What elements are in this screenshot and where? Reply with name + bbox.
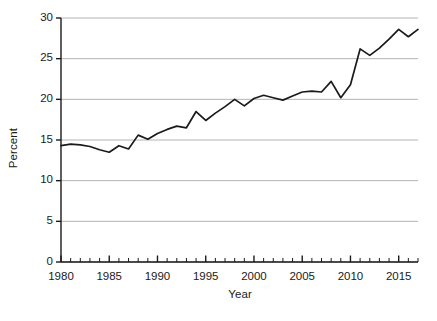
- line-chart: Percent Year 051015202530198019851990199…: [0, 0, 437, 321]
- x-tick-label-2010: 2010: [330, 270, 370, 282]
- x-tick-label-2005: 2005: [282, 270, 322, 282]
- data-series-line: [61, 29, 418, 152]
- x-tick-label-1980: 1980: [41, 270, 81, 282]
- x-axis-ticks: [61, 256, 418, 263]
- series-line-0: [61, 29, 418, 152]
- y-axis-ticks: [56, 18, 61, 262]
- y-tick-label-30: 30: [23, 11, 53, 23]
- y-axis-title: Percent: [7, 118, 19, 178]
- y-tick-label-10: 10: [23, 173, 53, 185]
- y-tick-label-0: 0: [23, 255, 53, 267]
- x-tick-label-2000: 2000: [234, 270, 274, 282]
- y-tick-label-20: 20: [23, 92, 53, 104]
- y-tick-label-5: 5: [23, 214, 53, 226]
- y-tick-label-25: 25: [23, 51, 53, 63]
- x-tick-label-2015: 2015: [379, 270, 419, 282]
- x-tick-label-1990: 1990: [137, 270, 177, 282]
- x-tick-label-1995: 1995: [186, 270, 226, 282]
- y-tick-label-15: 15: [23, 133, 53, 145]
- gridlines: [61, 18, 418, 262]
- x-tick-label-1985: 1985: [89, 270, 129, 282]
- x-axis-title: Year: [210, 288, 270, 300]
